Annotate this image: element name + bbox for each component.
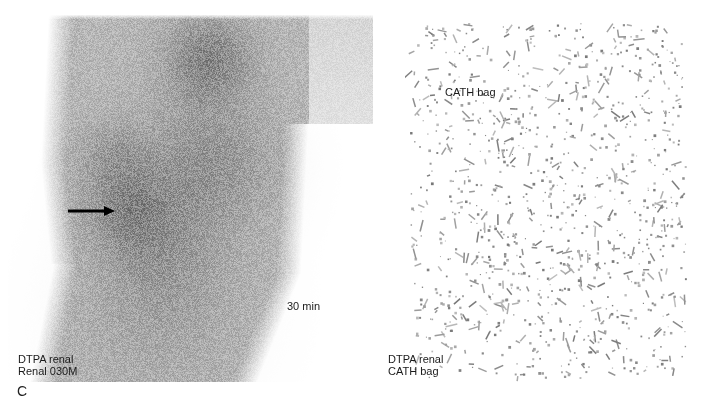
cath-bag-label: CATH bag <box>445 86 496 98</box>
time-label: 30 min <box>287 300 320 312</box>
right-caption-line1: DTPA renal <box>388 353 443 365</box>
left-scintigraphy-image <box>8 14 378 382</box>
panel-letter: C <box>17 383 27 399</box>
right-catheter-bag-image <box>405 18 690 383</box>
left-caption-line2: Renal 030M <box>18 365 77 377</box>
right-caption-line2: CATH bag <box>388 365 439 377</box>
left-caption-line1: DTPA renal <box>18 353 73 365</box>
right-arrow-icon <box>68 205 116 217</box>
